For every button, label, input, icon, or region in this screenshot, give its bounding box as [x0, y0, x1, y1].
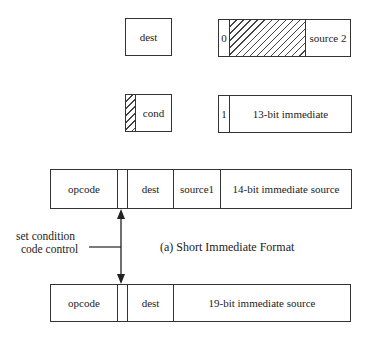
arrow-up-icon: [117, 209, 125, 219]
scc-arrow-graphic: [0, 0, 370, 344]
arrow-down-icon: [117, 274, 125, 284]
annotation-line-2: code control: [21, 243, 78, 255]
annotation-line-1: set condition: [16, 230, 75, 242]
figure-caption: (a) Short Immediate Format: [160, 240, 294, 255]
